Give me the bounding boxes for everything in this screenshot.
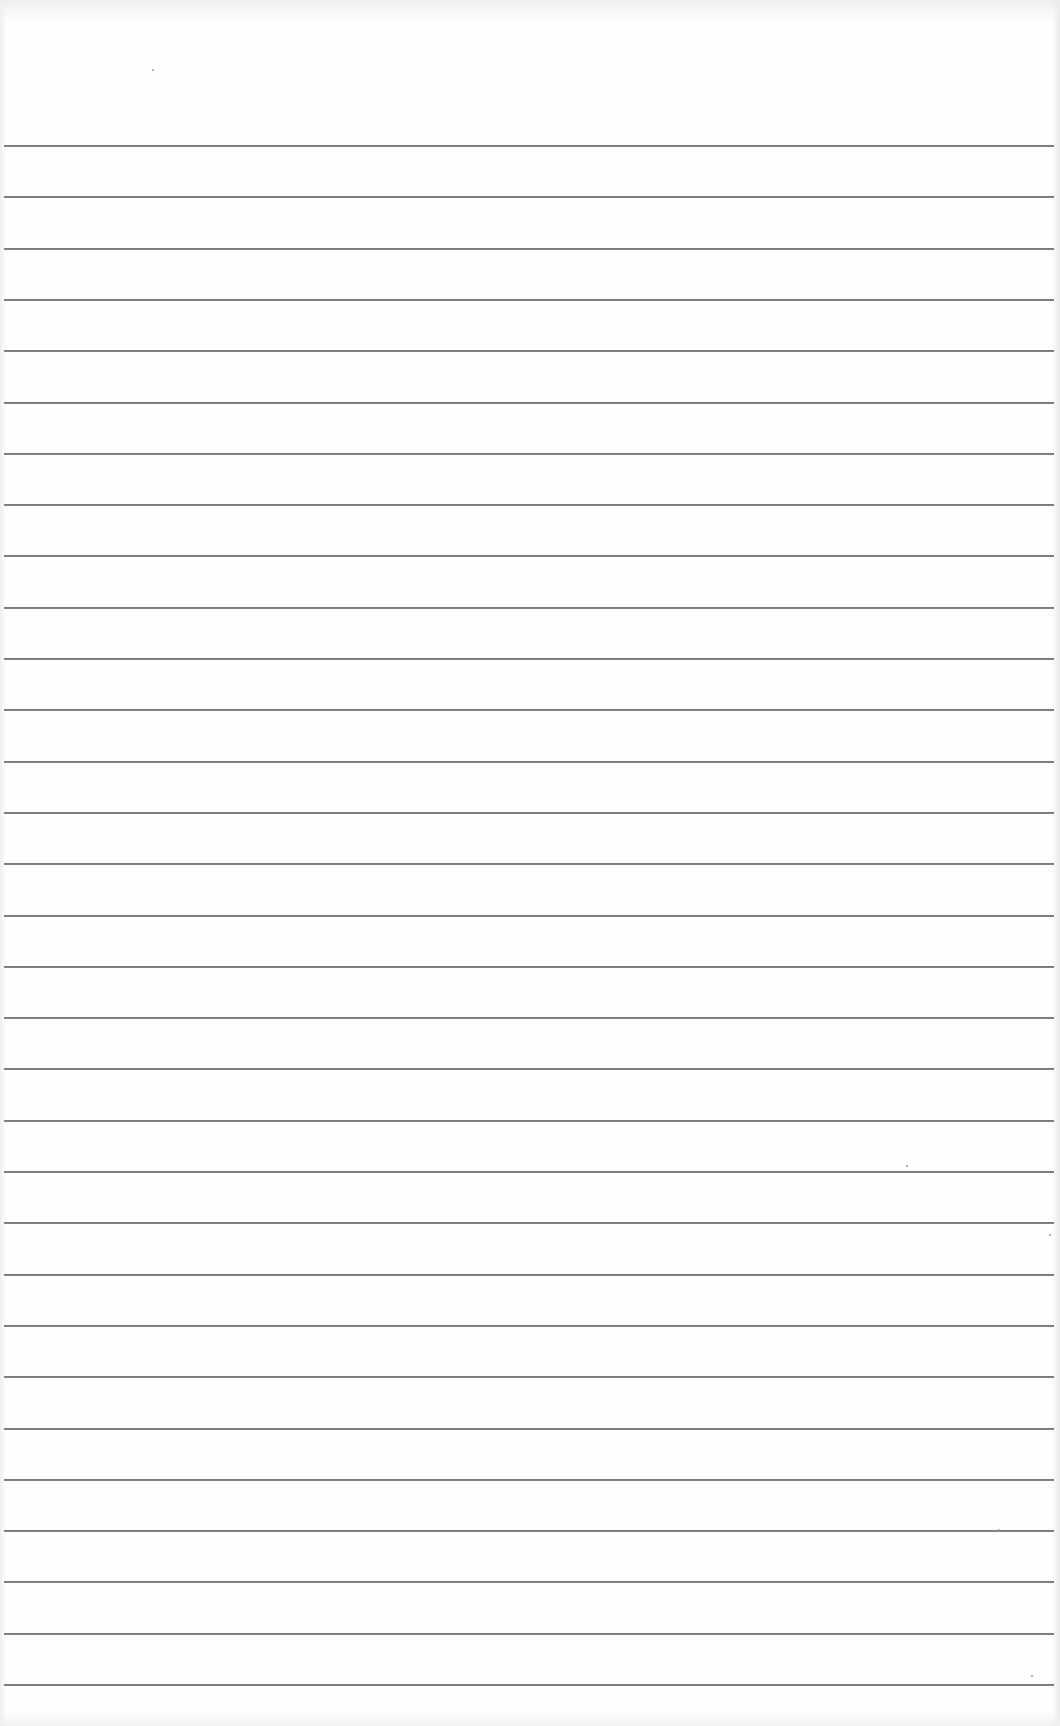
ruled-line <box>4 350 1054 352</box>
ruled-line <box>4 1017 1054 1019</box>
ruled-line <box>4 1120 1054 1122</box>
ruled-line <box>4 299 1054 301</box>
ruled-line <box>4 812 1054 814</box>
ruled-line <box>4 1581 1054 1583</box>
ruled-line <box>4 504 1054 506</box>
scan-shadow-top <box>0 0 1060 22</box>
ruled-line <box>4 1068 1054 1070</box>
ruled-line <box>4 145 1054 147</box>
ruled-line <box>4 1171 1054 1173</box>
ruled-line <box>4 1222 1054 1224</box>
ruled-line <box>4 1479 1054 1481</box>
ruled-line <box>4 709 1054 711</box>
ruled-line <box>4 402 1054 404</box>
notebook-page <box>0 0 1060 1726</box>
ruled-line <box>4 863 1054 865</box>
ruled-line <box>4 453 1054 455</box>
ruled-line <box>4 1633 1054 1635</box>
ruled-line <box>4 1376 1054 1378</box>
ruled-line <box>4 555 1054 557</box>
scan-speck <box>998 1529 1000 1531</box>
scan-speck <box>1049 1234 1051 1236</box>
ruled-line <box>4 915 1054 917</box>
ruled-line <box>4 1684 1054 1686</box>
ruled-line <box>4 1325 1054 1327</box>
ruled-line <box>4 196 1054 198</box>
ruled-line <box>4 1428 1054 1430</box>
ruled-line <box>4 966 1054 968</box>
scan-shadow-bottom <box>0 1712 1060 1726</box>
ruled-line <box>4 248 1054 250</box>
ruled-line <box>4 1274 1054 1276</box>
ruled-line <box>4 761 1054 763</box>
ruled-line <box>4 1530 1054 1532</box>
scan-speck <box>152 69 154 71</box>
scan-speck <box>906 1165 908 1167</box>
scan-speck <box>1031 1675 1033 1677</box>
ruled-line <box>4 607 1054 609</box>
ruled-line <box>4 658 1054 660</box>
